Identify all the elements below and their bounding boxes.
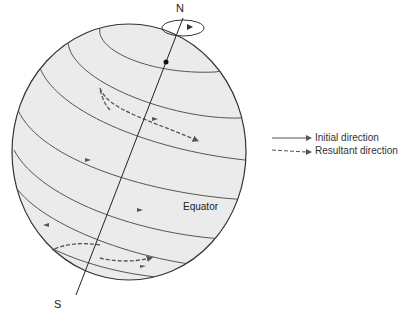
solid-arrow-icon (272, 134, 312, 142)
rotation-arrow-icon (162, 20, 204, 36)
north-label: N (176, 2, 184, 14)
coriolis-diagram (0, 0, 403, 316)
legend-initial-direction: Initial direction (272, 132, 379, 143)
dashed-arrow-icon (272, 147, 312, 155)
legend-resultant-direction: Resultant direction (272, 145, 398, 156)
legend-label: Initial direction (315, 132, 379, 143)
south-label: S (54, 298, 61, 310)
equator-label: Equator (183, 201, 218, 212)
legend-label: Resultant direction (315, 145, 398, 156)
globe (12, 24, 246, 280)
north-pole-dot (164, 60, 169, 65)
